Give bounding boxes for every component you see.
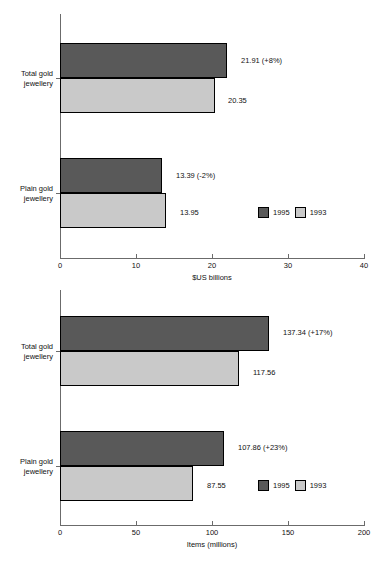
chart-gold-jewellery-value: 0 10 20 30 40 $US billions Total gold je…: [0, 0, 386, 290]
x-tick-label-top-0: 0: [45, 261, 75, 270]
x-tick-label-top-20: 20: [197, 261, 227, 270]
category-label-top-plain: Plain gold jewellery: [0, 184, 53, 203]
bar-bottom-total-1993: [60, 351, 239, 386]
x-tick-top-40: [364, 254, 365, 258]
x-tick-label-bottom-100: 100: [197, 528, 227, 537]
plot-area-top: 0 10 20 30 40 $US billions Total gold je…: [0, 0, 386, 290]
x-tick-label-top-40: 40: [349, 261, 379, 270]
x-tick-label-top-30: 30: [273, 261, 303, 270]
legend-swatch-1993-icon: [295, 207, 306, 218]
x-axis-title-top: $US billions: [132, 273, 292, 282]
category-label-bottom-total: Total gold jewellery: [0, 342, 53, 361]
value-label-bottom-plain-1993: 87.55: [207, 481, 226, 490]
legend-swatch-1993-icon: [295, 480, 306, 491]
x-tick-label-bottom-50: 50: [121, 528, 151, 537]
legend-top: 1995 1993: [258, 207, 326, 218]
x-tick-bottom-150: [288, 521, 289, 525]
x-tick-top-10: [136, 254, 137, 258]
x-tick-label-top-10: 10: [121, 261, 151, 270]
x-tick-label-bottom-200: 200: [349, 528, 379, 537]
bar-bottom-plain-1993: [60, 466, 193, 501]
x-axis-line-top: [60, 258, 365, 259]
x-tick-bottom-200: [364, 521, 365, 525]
category-label-bottom-plain: Plain gold jewellery: [0, 457, 53, 476]
legend-swatch-1995-icon: [258, 207, 269, 218]
legend-label-top-1993: 1993: [310, 208, 327, 217]
x-tick-bottom-100: [212, 521, 213, 525]
x-tick-bottom-50: [136, 521, 137, 525]
legend-item-bottom-1995: 1995: [258, 480, 290, 491]
value-label-top-plain-1995: 13.39 (-2%): [176, 171, 215, 180]
legend-label-bottom-1995: 1995: [273, 481, 290, 490]
legend-bottom: 1995 1993: [258, 480, 326, 491]
x-tick-label-bottom-0: 0: [45, 528, 75, 537]
category-label-top-total: Total gold jewellery: [0, 69, 53, 88]
legend-label-bottom-1993: 1993: [310, 481, 327, 490]
x-axis-line-bottom: [60, 525, 365, 526]
value-label-top-plain-1993: 13.95: [180, 208, 199, 217]
chart-page: 0 10 20 30 40 $US billions Total gold je…: [0, 0, 386, 571]
bar-top-total-1993: [60, 78, 215, 113]
legend-item-top-1993: 1993: [295, 207, 327, 218]
bar-bottom-total-1995: [60, 316, 269, 351]
bar-top-plain-1995: [60, 158, 162, 193]
x-tick-top-20: [212, 254, 213, 258]
value-label-top-total-1995: 21.91 (+8%): [241, 56, 282, 65]
value-label-bottom-plain-1995: 107.86 (+23%): [238, 443, 287, 452]
plot-area-bottom: 0 50 100 150 200 Items (millions) Total …: [0, 290, 386, 571]
value-label-top-total-1993: 20.35: [228, 96, 247, 105]
x-tick-bottom-0: [60, 521, 61, 525]
x-tick-label-bottom-150: 150: [273, 528, 303, 537]
x-axis-title-bottom: Items (millions): [132, 540, 292, 549]
legend-label-top-1995: 1995: [273, 208, 290, 217]
x-tick-top-30: [288, 254, 289, 258]
legend-item-bottom-1993: 1993: [295, 480, 327, 491]
x-tick-top-0: [60, 254, 61, 258]
bar-top-total-1995: [60, 43, 227, 78]
legend-swatch-1995-icon: [258, 480, 269, 491]
bar-top-plain-1993: [60, 193, 166, 228]
value-label-bottom-total-1993: 117.56: [253, 368, 275, 377]
value-label-bottom-total-1995: 137.34 (+17%): [283, 328, 332, 337]
chart-gold-jewellery-items: 0 50 100 150 200 Items (millions) Total …: [0, 290, 386, 571]
bar-bottom-plain-1995: [60, 431, 224, 466]
legend-item-top-1995: 1995: [258, 207, 290, 218]
